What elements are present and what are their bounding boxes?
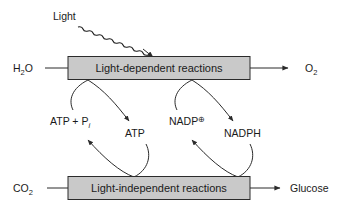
- atp-label: ATP: [125, 127, 145, 139]
- co2-label-main: CO: [13, 182, 29, 194]
- light-dependent-box-label: Light-dependent reactions: [95, 62, 223, 74]
- co2-label-sub: 2: [29, 188, 33, 197]
- atp-cycle-to-atp-arrow: [88, 80, 129, 121]
- adp-phosphate-label-main: ATP + P: [50, 115, 88, 127]
- photosynthesis-diagram: Light H2O O2 Light-dependent reactions A…: [0, 0, 343, 212]
- water-label-tail: O: [25, 62, 33, 74]
- atp-cycle-to-adp-arrow: [88, 140, 134, 177]
- light-arrow: [143, 49, 153, 57]
- water-label: H2O: [13, 62, 33, 77]
- adp-phosphate-label: ATP + Pi: [50, 115, 90, 130]
- water-label-main: H: [13, 62, 21, 74]
- oxygen-label: O2: [305, 62, 317, 77]
- atp-cycle-upper-left-curve: [71, 80, 88, 110]
- nadph-cycle-upper-left-curve: [175, 80, 192, 110]
- oxygen-label-sub: 2: [313, 68, 317, 77]
- light-label: Light: [53, 10, 76, 22]
- glucose-label: Glucose: [290, 182, 329, 194]
- nadp-label-main: NADP: [169, 115, 198, 127]
- light-wave-line: [78, 27, 148, 56]
- nadp-label: NADP⊕: [169, 115, 205, 128]
- nadph-cycle-to-nadp-arrow: [192, 140, 238, 177]
- nadp-label-sup: ⊕: [198, 115, 205, 124]
- co2-label: CO2: [13, 182, 33, 197]
- diagram-canvas: Light H2O O2 Light-dependent reactions A…: [0, 0, 343, 212]
- oxygen-label-main: O: [305, 62, 313, 74]
- nadph-label: NADPH: [224, 127, 261, 139]
- atp-cycle-lower-right-curve: [134, 144, 149, 177]
- nadph-cycle-lower-right-curve: [238, 144, 253, 177]
- light-independent-box-label: Light-independent reactions: [91, 182, 227, 194]
- adp-phosphate-label-sub: i: [88, 121, 90, 130]
